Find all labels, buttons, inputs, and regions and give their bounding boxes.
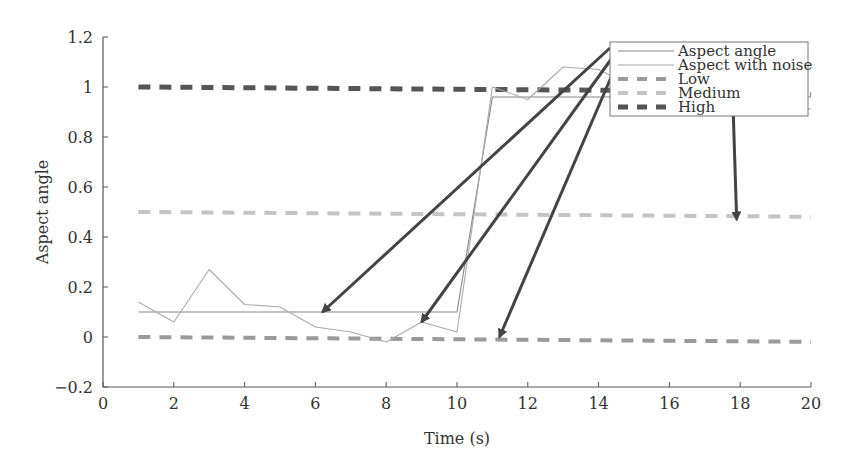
x-tick-label: 12	[518, 394, 538, 413]
legend-label: High	[678, 98, 715, 116]
x-tick-label: 0	[98, 394, 108, 413]
y-tick-label: 0.2	[68, 278, 93, 297]
line-chart: −0.200.20.40.60.811.202468101214161820Ti…	[0, 0, 848, 476]
y-tick-label: 0	[83, 328, 93, 347]
y-tick-label: 0.4	[68, 228, 93, 247]
x-tick-label: 2	[169, 394, 179, 413]
x-tick-label: 20	[801, 394, 821, 413]
x-tick-label: 16	[659, 394, 679, 413]
x-tick-label: 18	[730, 394, 750, 413]
x-tick-label: 8	[381, 394, 391, 413]
y-tick-label: −0.2	[54, 378, 93, 397]
y-tick-label: 0.6	[68, 178, 93, 197]
annotation-arrow	[422, 58, 612, 322]
x-tick-label: 10	[447, 394, 467, 413]
y-axis-label: Aspect angle	[33, 160, 52, 266]
x-tick-label: 14	[588, 394, 608, 413]
y-tick-label: 1	[83, 78, 93, 97]
annotation-arrow	[733, 105, 737, 220]
y-tick-label: 0.8	[68, 128, 93, 147]
annotation-arrow	[499, 75, 612, 337]
y-tick-label: 1.2	[68, 28, 93, 47]
series-aspect-angle	[138, 97, 811, 312]
x-axis-label: Time (s)	[424, 429, 490, 448]
x-tick-label: 4	[240, 394, 250, 413]
x-tick-label: 6	[310, 394, 320, 413]
legend: Aspect angleAspect with noiseLowMediumHi…	[610, 42, 812, 116]
series-low	[138, 337, 811, 342]
